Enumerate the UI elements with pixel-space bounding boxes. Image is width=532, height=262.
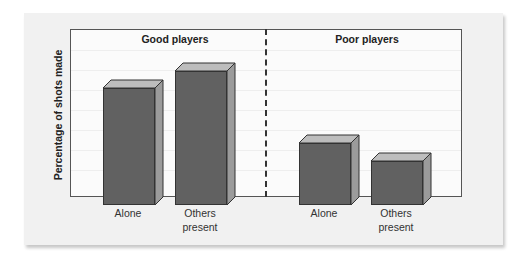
x-label-line1: Others	[361, 206, 431, 220]
bar-front	[371, 161, 423, 205]
x-label-line1: Others	[165, 206, 235, 220]
bar-good-alone	[103, 80, 164, 205]
x-label-good-alone: Alone	[93, 206, 163, 220]
bar-good-others	[175, 63, 236, 205]
x-label-line2: present	[165, 220, 235, 234]
bar-front	[175, 71, 227, 205]
bar-front	[299, 143, 351, 205]
group-title-poor: Poor players	[287, 33, 447, 45]
x-label-line2: present	[361, 220, 431, 234]
group-title-good: Good players	[95, 33, 255, 45]
bar-front	[103, 88, 155, 205]
x-label-text: Alone	[311, 207, 338, 219]
bar-poor-alone	[299, 135, 360, 205]
x-label-good-others: Others present	[165, 206, 235, 234]
x-label-poor-others: Others present	[361, 206, 431, 234]
x-label-poor-alone: Alone	[289, 206, 359, 220]
group-divider	[265, 29, 267, 197]
x-label-text: Alone	[115, 207, 142, 219]
y-axis-label: Percentage of shots made	[52, 50, 64, 181]
bar-poor-others	[371, 153, 432, 205]
